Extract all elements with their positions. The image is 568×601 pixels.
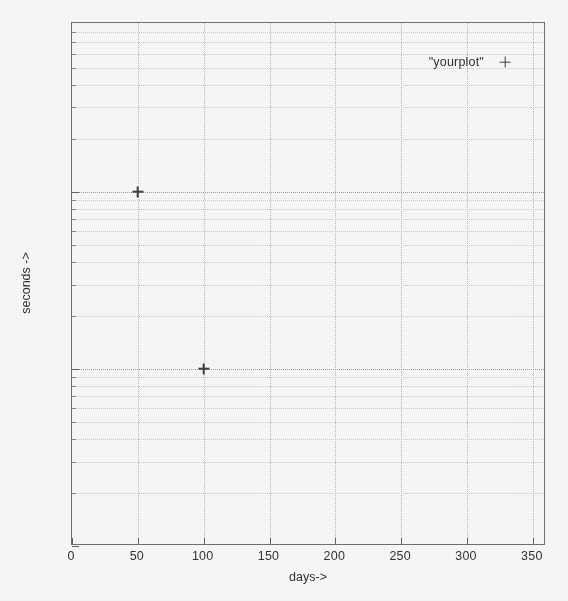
vertical-gridline bbox=[270, 23, 271, 544]
y-axis-tick-minor bbox=[72, 68, 76, 69]
horizontal-gridline-major bbox=[72, 192, 544, 193]
y-axis-tick-minor bbox=[72, 285, 76, 286]
y-axis-tick bbox=[72, 369, 79, 370]
vertical-gridline bbox=[335, 23, 336, 544]
chart-figure: "yourplot" 050100150200250300350 110100 … bbox=[0, 0, 568, 601]
horizontal-gridline-minor bbox=[72, 285, 544, 286]
data-point-plus-icon bbox=[132, 186, 143, 197]
y-axis-tick-minor bbox=[72, 32, 76, 33]
vertical-gridline bbox=[138, 23, 139, 544]
x-tick-label: 100 bbox=[192, 549, 213, 563]
y-axis-tick-minor bbox=[72, 219, 76, 220]
legend: "yourplot" bbox=[429, 55, 524, 69]
vertical-gridline bbox=[401, 23, 402, 544]
y-axis-tick-minor bbox=[72, 422, 76, 423]
y-axis-tick bbox=[72, 546, 79, 547]
horizontal-gridline-minor bbox=[72, 462, 544, 463]
horizontal-gridline-minor bbox=[72, 245, 544, 246]
y-axis-tick-minor bbox=[72, 231, 76, 232]
horizontal-gridline-minor bbox=[72, 139, 544, 140]
x-tick-label: 200 bbox=[324, 549, 345, 563]
y-axis-tick-minor bbox=[72, 462, 76, 463]
vertical-gridline bbox=[204, 23, 205, 544]
x-axis-tick bbox=[401, 538, 402, 544]
x-tick-label: 150 bbox=[258, 549, 279, 563]
y-axis-tick-minor bbox=[72, 439, 76, 440]
horizontal-gridline-minor bbox=[72, 396, 544, 397]
y-axis-tick-minor bbox=[72, 396, 76, 397]
horizontal-gridline-minor bbox=[72, 209, 544, 210]
y-axis-tick-minor bbox=[72, 85, 76, 86]
horizontal-gridline-minor bbox=[72, 219, 544, 220]
y-axis-tick-minor bbox=[72, 200, 76, 201]
vertical-gridline bbox=[467, 23, 468, 544]
y-axis-tick-minor bbox=[72, 262, 76, 263]
horizontal-gridline-minor bbox=[72, 42, 544, 43]
y-axis-tick-minor bbox=[72, 493, 76, 494]
x-tick-label: 300 bbox=[455, 549, 476, 563]
x-tick-label: 350 bbox=[521, 549, 542, 563]
horizontal-gridline-minor bbox=[72, 231, 544, 232]
horizontal-gridline-minor bbox=[72, 377, 544, 378]
horizontal-gridline-minor bbox=[72, 386, 544, 387]
y-axis-tick-minor bbox=[72, 408, 76, 409]
y-axis-title: seconds -> bbox=[19, 252, 33, 314]
horizontal-gridline-minor bbox=[72, 493, 544, 494]
horizontal-gridline-minor bbox=[72, 316, 544, 317]
x-tick-label: 50 bbox=[130, 549, 144, 563]
x-axis-tick bbox=[72, 538, 73, 544]
y-axis-tick-minor bbox=[72, 316, 76, 317]
legend-series-label: "yourplot" bbox=[429, 55, 484, 69]
x-axis-tick bbox=[467, 538, 468, 544]
horizontal-gridline-minor bbox=[72, 408, 544, 409]
x-axis-tick bbox=[270, 538, 271, 544]
y-axis-tick-minor bbox=[72, 107, 76, 108]
x-tick-label: 250 bbox=[389, 549, 410, 563]
x-axis-tick bbox=[204, 538, 205, 544]
y-axis-tick-minor bbox=[72, 377, 76, 378]
horizontal-gridline-major bbox=[72, 369, 544, 370]
horizontal-gridline-minor bbox=[72, 262, 544, 263]
horizontal-gridline-minor bbox=[72, 439, 544, 440]
y-axis-tick-minor bbox=[72, 42, 76, 43]
plus-marker-icon bbox=[500, 57, 511, 68]
x-tick-label: 0 bbox=[67, 549, 74, 563]
y-axis-tick-minor bbox=[72, 386, 76, 387]
horizontal-gridline-minor bbox=[72, 422, 544, 423]
y-axis-tick-minor bbox=[72, 245, 76, 246]
plot-area: "yourplot" bbox=[71, 22, 545, 545]
vertical-gridline bbox=[533, 23, 534, 544]
horizontal-gridline-minor bbox=[72, 32, 544, 33]
data-point-plus-icon bbox=[198, 363, 209, 374]
x-axis-tick bbox=[533, 538, 534, 544]
horizontal-gridline-minor bbox=[72, 200, 544, 201]
x-axis-tick bbox=[138, 538, 139, 544]
x-axis-title: days-> bbox=[289, 570, 327, 584]
legend-marker-sample bbox=[498, 56, 524, 68]
y-axis-tick-minor bbox=[72, 209, 76, 210]
y-axis-tick bbox=[72, 192, 79, 193]
y-axis-tick-minor bbox=[72, 139, 76, 140]
horizontal-gridline-minor bbox=[72, 85, 544, 86]
x-axis-tick bbox=[335, 538, 336, 544]
horizontal-gridline-minor bbox=[72, 107, 544, 108]
y-axis-tick-minor bbox=[72, 54, 76, 55]
